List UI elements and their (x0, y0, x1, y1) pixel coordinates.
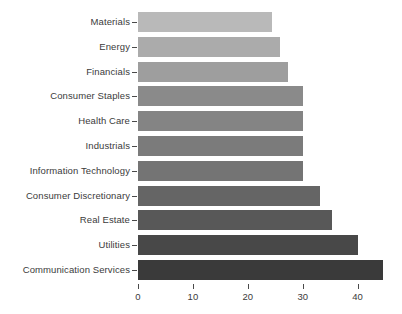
value-tick-label: 10 (188, 291, 199, 302)
category-tick-mark (132, 270, 137, 271)
category-tick-label: Industrials (86, 136, 130, 156)
bar (138, 37, 280, 57)
category-tick-mark (132, 22, 137, 23)
category-tick-label: Consumer Staples (50, 86, 130, 106)
plot-area (138, 8, 396, 280)
bar (138, 136, 303, 156)
category-tick-label: Energy (99, 37, 130, 57)
bar (138, 62, 288, 82)
bar (138, 161, 303, 181)
category-axis: MaterialsEnergyFinancialsConsumer Staple… (0, 8, 130, 280)
category-tick-label: Real Estate (80, 210, 130, 230)
category-tick-mark (132, 47, 137, 48)
value-tick-label: 40 (352, 291, 363, 302)
bar (138, 86, 303, 106)
bar (138, 186, 320, 206)
bar-chart: MaterialsEnergyFinancialsConsumer Staple… (0, 0, 402, 314)
bar (138, 235, 358, 255)
category-tick-mark (132, 121, 137, 122)
category-tick-mark (132, 96, 137, 97)
value-tick-label: 30 (297, 291, 308, 302)
value-tick-label: 20 (242, 291, 253, 302)
value-tick-label: 0 (135, 291, 140, 302)
category-tick-mark (132, 171, 137, 172)
category-tick-label: Financials (86, 62, 130, 82)
bar (138, 260, 383, 280)
category-tick-label: Utilities (98, 235, 130, 255)
category-tick-label: Health Care (78, 111, 130, 131)
value-tick-mark (303, 284, 304, 289)
value-tick-mark (248, 284, 249, 289)
category-tick-mark (132, 245, 137, 246)
bar (138, 111, 303, 131)
value-tick-mark (193, 284, 194, 289)
bar (138, 210, 332, 230)
bar (138, 12, 272, 32)
category-tick-mark (132, 72, 137, 73)
category-tick-label: Information Technology (30, 161, 130, 181)
category-tick-mark (132, 146, 137, 147)
category-tick-mark (132, 196, 137, 197)
category-tick-label: Consumer Discretionary (26, 186, 130, 206)
value-tick-mark (358, 284, 359, 289)
category-tick-mark (132, 220, 137, 221)
value-tick-mark (138, 284, 139, 289)
category-tick-label: Materials (91, 12, 130, 32)
category-tick-label: Communication Services (23, 260, 130, 280)
value-axis: 010203040 (0, 284, 402, 314)
